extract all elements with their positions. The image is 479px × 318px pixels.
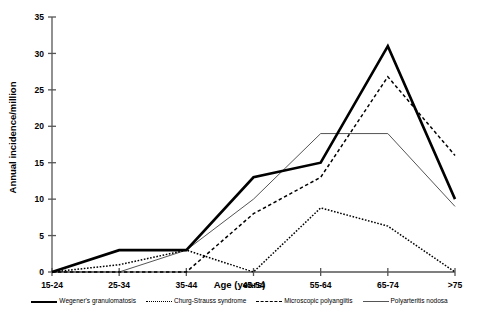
legend-item: Polyarteritis nodosa [363,297,448,304]
y-axis-title: Annual incidence/million [8,82,19,194]
data-series-group [52,46,455,272]
y-tick-label: 10 [35,194,45,204]
legend-item: Churg-Strauss syndrome [146,297,246,304]
series-line [52,77,455,272]
y-tick-label: 0 [39,267,44,277]
x-axis-title: Age (years) [0,279,479,290]
legend-label: Microscopic polyangiitis [284,297,352,304]
series-line [52,208,455,272]
legend-label: Wegener's granulomatosis [59,297,136,304]
y-tick-label: 5 [39,231,44,241]
series-line [52,46,455,272]
y-tick-label: 35 [35,12,45,22]
y-axis-title-wrapper: Annual incidence/million [2,0,24,275]
line-chart-plot: 05101520253035 15-2425-3435-4445-5455-64… [0,0,479,318]
chart-legend: Wegener's granulomatosisChurg-Strauss sy… [0,297,479,304]
legend-swatch-icon [146,298,172,304]
legend-swatch-icon [256,298,282,304]
y-tick-label: 30 [35,49,45,59]
legend-item: Wegener's granulomatosis [31,297,136,304]
legend-label: Churg-Strauss syndrome [174,297,246,304]
legend-swatch-icon [363,298,389,304]
chart-figure: 05101520253035 15-2425-3435-4445-5455-64… [0,0,479,318]
y-tick-label: 15 [35,158,45,168]
legend-item: Microscopic polyangiitis [256,297,352,304]
y-tick-label: 20 [35,121,45,131]
y-axis: 05101520253035 [35,12,56,277]
legend-swatch-icon [31,298,57,304]
y-tick-label: 25 [35,85,45,95]
legend-label: Polyarteritis nodosa [391,297,448,304]
